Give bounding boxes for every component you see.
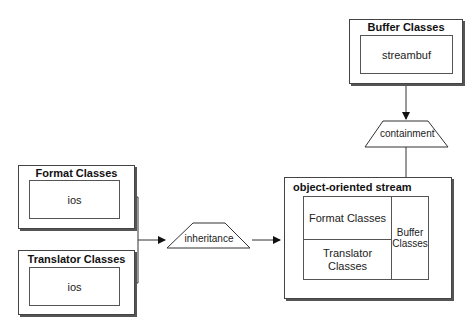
containment-label: containment <box>380 128 432 139</box>
format-classes-title: Format Classes <box>19 167 134 180</box>
streambuf-box: streambuf <box>360 35 453 74</box>
stream-title: object-oriented stream <box>293 181 412 194</box>
format-ios-box: ios <box>29 180 120 219</box>
object-oriented-stream-box: object-oriented stream Format Classes Tr… <box>284 177 452 299</box>
stream-buffer-cell: Buffer Classes <box>391 196 429 280</box>
inheritance-label: inheritance <box>178 233 240 244</box>
translator-classes-title: Translator Classes <box>19 253 134 266</box>
stream-translator-cell: Translator Classes <box>303 239 392 280</box>
buffer-classes-title: Buffer Classes <box>350 21 462 34</box>
format-classes-box: Format Classes ios <box>18 165 135 229</box>
translator-ios-box: ios <box>29 267 120 306</box>
buffer-classes-box: Buffer Classes streambuf <box>349 19 463 84</box>
translator-classes-box: Translator Classes ios <box>18 250 135 315</box>
stream-format-cell: Format Classes <box>303 196 392 240</box>
